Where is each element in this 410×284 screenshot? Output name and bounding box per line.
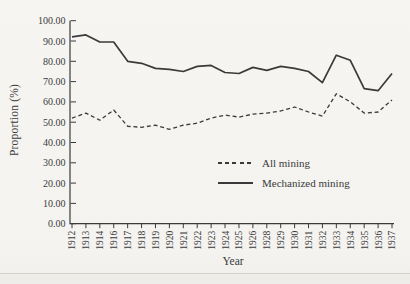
y-tick-label: 90.00 — [43, 36, 66, 47]
x-tick-label: 1931 — [304, 230, 314, 249]
x-tick-label: 1923 — [207, 230, 217, 249]
x-axis-title: Year — [173, 255, 293, 267]
scanned-figure-page: 100.0090.0080.0070.0060.0050.0040.0030.0… — [0, 0, 410, 284]
y-tick-label: 100.00 — [38, 15, 66, 26]
x-tick-label: 1928 — [262, 230, 272, 249]
x-tick-label: 1914 — [95, 230, 105, 249]
x-tick-label: 1936 — [374, 230, 384, 249]
x-tick-label: 1932 — [318, 230, 328, 249]
legend-item-mechanized-mining: Mechanized mining — [218, 173, 350, 193]
legend-item-all-mining: All mining — [218, 153, 350, 173]
x-tick-label: 1937 — [388, 230, 398, 249]
x-tick-label: 1918 — [137, 230, 147, 249]
x-tick-label: 1934 — [346, 230, 356, 249]
x-tick-label: 1925 — [234, 230, 244, 249]
y-tick-label: 70.00 — [43, 76, 66, 87]
y-tick-label: 20.00 — [43, 178, 66, 189]
y-tick-label: 30.00 — [43, 157, 66, 168]
all-mining-line — [72, 94, 392, 130]
chart-plot-area: 100.0090.0080.0070.0060.0050.0040.0030.0… — [0, 0, 410, 284]
x-tick-label: 1933 — [332, 230, 342, 249]
y-axis-title: Proportion (%) — [8, 60, 20, 180]
legend-label-all-mining: All mining — [262, 157, 310, 169]
y-tick-label: 10.00 — [43, 198, 66, 209]
x-tick-label: 1920 — [165, 230, 175, 249]
x-tick-label: 1917 — [123, 230, 133, 249]
x-tick-label: 1926 — [248, 230, 258, 249]
x-tick-label: 1935 — [360, 230, 370, 249]
legend-label-mechanized-mining: Mechanized mining — [262, 177, 350, 189]
x-tick-label: 1922 — [193, 230, 203, 249]
y-tick-label: 60.00 — [43, 96, 66, 107]
x-tick-label: 1929 — [276, 230, 286, 249]
x-tick-label: 1916 — [109, 230, 119, 249]
mechanized-mining-line — [72, 35, 392, 91]
x-tick-label: 1912 — [68, 230, 78, 249]
x-tick-label: 1913 — [81, 230, 91, 249]
dashed-line-swatch — [218, 162, 253, 163]
axes — [70, 21, 394, 224]
y-tick-label: 40.00 — [43, 137, 66, 148]
x-tick-label: 1930 — [290, 230, 300, 249]
legend: All mining Mechanized mining — [218, 153, 350, 193]
solid-line-swatch — [218, 182, 253, 184]
x-tick-label: 1921 — [179, 230, 189, 249]
x-tick-label: 1919 — [151, 230, 161, 249]
x-tick-label: 1924 — [221, 230, 231, 249]
page-bottom-edge — [0, 273, 410, 284]
y-tick-label: 80.00 — [43, 56, 66, 67]
y-tick-label: 0.00 — [48, 218, 66, 229]
y-tick-label: 50.00 — [43, 117, 66, 128]
